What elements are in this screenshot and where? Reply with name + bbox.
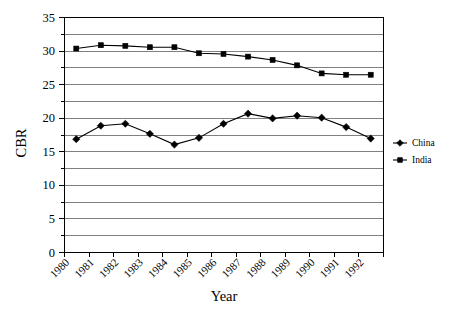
data-point-india-1984 (172, 45, 177, 50)
y-axis-tick-label: 5 (49, 212, 55, 226)
square-marker-icon (398, 158, 403, 163)
y-axis-tick-label: 30 (43, 44, 56, 58)
data-point-india-1990 (319, 71, 324, 76)
y-axis-tick-label: 0 (49, 246, 55, 260)
legend-label: China (412, 138, 435, 148)
cbr-line-chart: 05101520253035 1980198119821983198419851… (0, 0, 456, 317)
data-point-india-1992 (368, 72, 373, 77)
data-point-india-1989 (295, 63, 300, 68)
data-point-india-1985 (196, 51, 201, 56)
data-point-india-1982 (123, 43, 128, 48)
y-axis-tick-label: 35 (43, 11, 56, 25)
y-axis-tick-label: 20 (43, 111, 56, 125)
chart-container: 05101520253035 1980198119821983198419851… (0, 0, 456, 317)
data-point-india-1987 (246, 54, 251, 59)
y-axis-tick-label: 25 (43, 78, 56, 92)
x-axis-title: Year (211, 288, 238, 304)
data-point-india-1981 (98, 43, 103, 48)
data-point-india-1986 (221, 51, 226, 56)
legend-label: India (412, 155, 432, 165)
y-axis-tick-label: 10 (43, 178, 56, 192)
data-point-india-1991 (344, 72, 349, 77)
data-point-india-1980 (74, 46, 79, 51)
data-point-india-1988 (270, 57, 275, 62)
y-axis-title: CBR (13, 128, 29, 157)
y-axis-tick-label: 15 (43, 145, 56, 159)
data-point-india-1983 (147, 45, 152, 50)
